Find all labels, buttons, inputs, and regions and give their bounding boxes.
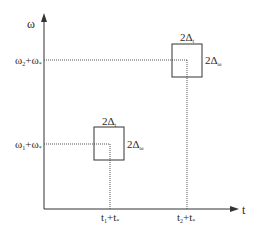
upper-box-width-label: 2Δt (180, 32, 194, 44)
x-axis-label: t (242, 204, 245, 216)
lower-omega-label: ω1+ω* (15, 139, 42, 151)
lower-box-width-label: 2Δt (102, 116, 116, 128)
lower-t-label: t1+t* (101, 212, 119, 224)
y-axis-arrow-icon (41, 13, 47, 22)
upper-box-height-label: 2Δω (205, 55, 222, 67)
y-axis-label: ω (27, 18, 35, 30)
lower-box-height-label: 2Δω (127, 139, 144, 151)
time-frequency-diagram (0, 0, 260, 236)
upper-omega-label: ω2+ω* (15, 55, 42, 67)
x-axis-arrow-icon (230, 206, 239, 212)
upper-t-label: t2+t* (177, 212, 195, 224)
